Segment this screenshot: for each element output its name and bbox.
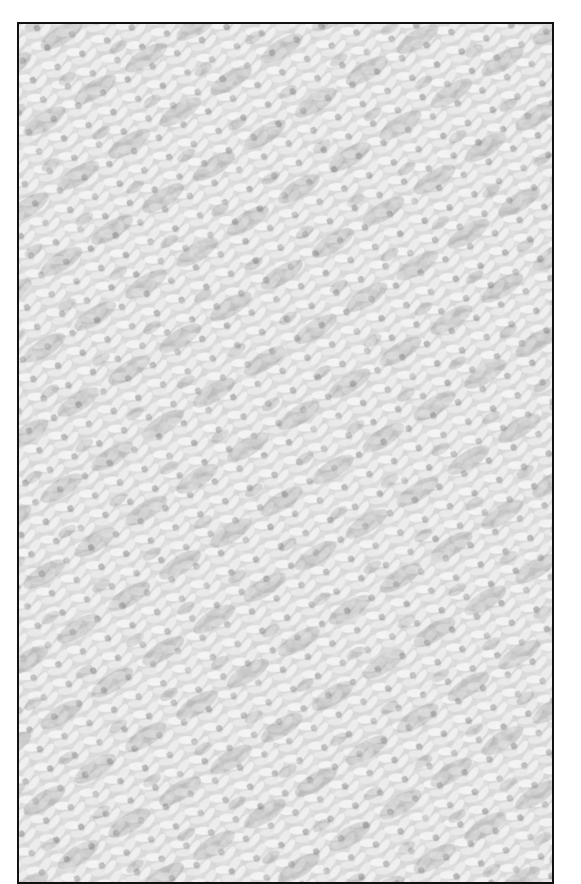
knit-pattern-graphic [19, 24, 552, 882]
knit-texture-photo [17, 22, 554, 884]
